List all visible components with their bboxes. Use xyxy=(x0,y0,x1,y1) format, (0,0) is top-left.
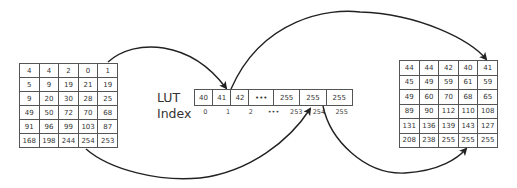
arrows-layer xyxy=(0,0,517,188)
arrow-lut-1-to-output xyxy=(231,11,486,89)
arrow-input-to-lut-254 xyxy=(86,109,310,179)
arrow-lut-254-to-output xyxy=(323,106,466,173)
arrow-input-to-lut-1 xyxy=(108,47,226,88)
